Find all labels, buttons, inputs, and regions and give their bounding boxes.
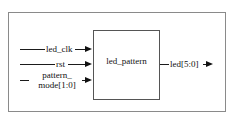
input-label-led-clk: led_clk <box>46 44 73 54</box>
input-label-rst: rst <box>56 59 65 69</box>
output-line-led-left <box>160 64 169 65</box>
module-label-led-pattern: led_pattern <box>93 56 160 67</box>
input-label-pattern-mode: pattern_ mode[1:0] <box>31 70 83 90</box>
arrow-right-icon-rst <box>85 61 92 67</box>
arrow-right-icon-led <box>206 61 213 67</box>
input-line-pattern-mode-left <box>20 80 29 81</box>
input-line-rst-left <box>20 64 55 65</box>
input-label-pattern-mode-line2: mode[1:0] <box>31 80 83 90</box>
arrow-right-icon-pattern-mode <box>85 77 92 83</box>
arrow-right-icon-led-clk <box>85 46 92 52</box>
output-label-led: led[5:0] <box>170 59 199 69</box>
block-diagram-canvas: led_clk rst pattern_ mode[1:0] led_patte… <box>0 0 233 122</box>
input-line-led-clk-left <box>20 49 45 50</box>
input-label-pattern-mode-line1: pattern_ <box>31 70 83 80</box>
input-line-rst-right <box>68 64 86 65</box>
